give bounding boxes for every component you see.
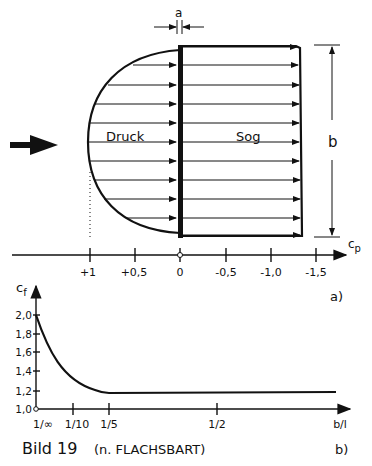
tick-label: 1,4: [15, 365, 32, 377]
cf-axis-label: cf: [16, 280, 27, 298]
tick-label: -1,0: [260, 266, 281, 279]
tick-label: 1,2: [15, 385, 32, 397]
panel-a-label: a): [330, 289, 343, 304]
bl-axis-label: b/l: [333, 418, 347, 431]
tick-label: 1,8: [15, 328, 32, 340]
tick-label: +0,5: [121, 266, 148, 279]
tick-label: 1/2: [208, 418, 226, 431]
cp-tick-labels: +1 +0,5 0 -0,5 -1,0 -1,5: [80, 266, 327, 279]
cf-tick-labels: 2,0 1,8 1,6 1,4 1,2 1,0: [15, 309, 32, 415]
suction-label: Sog: [236, 129, 260, 144]
dimension-a: [154, 20, 204, 34]
tick-label: +1: [80, 266, 96, 279]
figure-canvas: a b Druck Sog cp +1 +0,5 0 -0,5 -: [0, 0, 372, 466]
bl-tick-labels: 1/∞ 1/10 1/5 1/2 b/l: [33, 418, 347, 431]
tick-label: 0: [177, 266, 184, 279]
cf-axis: [33, 286, 40, 409]
cp-axis-label: cp: [348, 237, 361, 254]
bl-axis: [36, 403, 350, 415]
panel-a: a b Druck Sog cp +1 +0,5 0 -0,5 -: [10, 6, 361, 304]
figure-source: (n. FLACHSBART): [94, 442, 205, 457]
panel-b: cf 2,0 1,8 1,6 1,4 1,2 1,0 1/∞ 1/10 1/5 …: [15, 280, 350, 458]
dimension-b-label: b: [328, 133, 338, 151]
panel-b-label: b): [335, 442, 348, 457]
tick-label: 1/10: [65, 418, 90, 431]
tick-label: 1/∞: [33, 418, 53, 431]
dimension-a-label: a: [175, 6, 182, 20]
figure-caption: Bild 19: [22, 439, 77, 458]
tick-label: 2,0: [15, 309, 32, 321]
pressure-label: Druck: [106, 129, 145, 144]
tick-label: -1,5: [305, 266, 326, 279]
tick-label: 1/5: [100, 418, 118, 431]
wind-arrow-icon: [10, 135, 58, 155]
cf-curve: [36, 315, 336, 393]
tick-label: 1,6: [15, 346, 32, 358]
tick-label: 1,0: [15, 403, 32, 415]
flat-plate: [178, 45, 183, 238]
tick-label: -0,5: [215, 266, 236, 279]
